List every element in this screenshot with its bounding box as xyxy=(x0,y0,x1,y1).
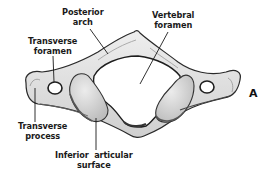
label-inferior-articular-surface: Inferior articular surface xyxy=(55,151,133,170)
label-transverse-process: Transverse process xyxy=(18,122,67,141)
label-vertebral-foramen: Vertebral foramen xyxy=(152,11,194,30)
panel-letter: A xyxy=(249,87,258,100)
atlas-vertebra-illustration xyxy=(0,0,277,185)
leader-posterior-arch xyxy=(90,29,108,54)
right-transverse-foramen xyxy=(200,81,214,93)
label-posterior-arch: Posterior arch xyxy=(62,8,104,27)
left-transverse-foramen xyxy=(48,82,62,94)
label-transverse-foramen: Transverse foramen xyxy=(28,37,77,56)
